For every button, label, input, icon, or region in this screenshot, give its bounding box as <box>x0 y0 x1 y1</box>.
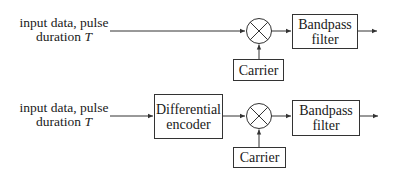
differential-encoder-block: Differential encoder <box>154 94 223 139</box>
top-bandpass-filter-block: Bandpass filter <box>292 14 358 49</box>
top-input-label: input data, pulse duration T <box>18 16 110 44</box>
bottom-carrier-block: Carrier <box>233 147 286 168</box>
bottom-input-label: input data, pulse duration T <box>18 101 110 129</box>
bottom-bandpass-filter-block: Bandpass filter <box>292 100 360 136</box>
top-carrier-block: Carrier <box>233 59 284 81</box>
